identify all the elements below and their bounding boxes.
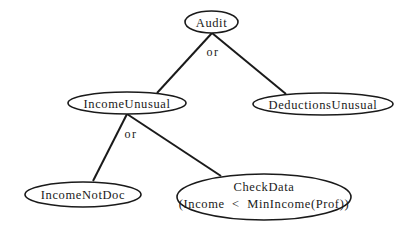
or-operator-label: or — [207, 45, 220, 59]
tree-diagram: or or Audit IncomeUnusual DeductionsUnus… — [0, 0, 420, 232]
edge-audit-incomeunusual — [157, 33, 212, 93]
or-operator-label: or — [125, 127, 138, 141]
edge-incomeunusual-incomenotdoc — [93, 114, 127, 181]
node-check-data: CheckData (Income < MinIncome(Prof)) — [177, 174, 351, 220]
node-label: Audit — [196, 16, 227, 30]
node-income-unusual: IncomeUnusual — [68, 92, 186, 114]
node-label-line2: (Income < MinIncome(Prof)) — [179, 197, 349, 211]
node-label: IncomeNotDoc — [41, 188, 125, 202]
node-label: IncomeUnusual — [84, 97, 171, 111]
node-income-not-doc: IncomeNotDoc — [25, 182, 141, 207]
node-label: DeductionsUnusual — [269, 98, 378, 112]
edge-incomeunusual-checkdata — [127, 114, 221, 176]
node-audit: Audit — [185, 11, 238, 33]
node-label-line1: CheckData — [234, 180, 295, 194]
node-deductions-unusual: DeductionsUnusual — [253, 93, 393, 115]
edge-audit-deductionsunusual — [212, 33, 286, 94]
